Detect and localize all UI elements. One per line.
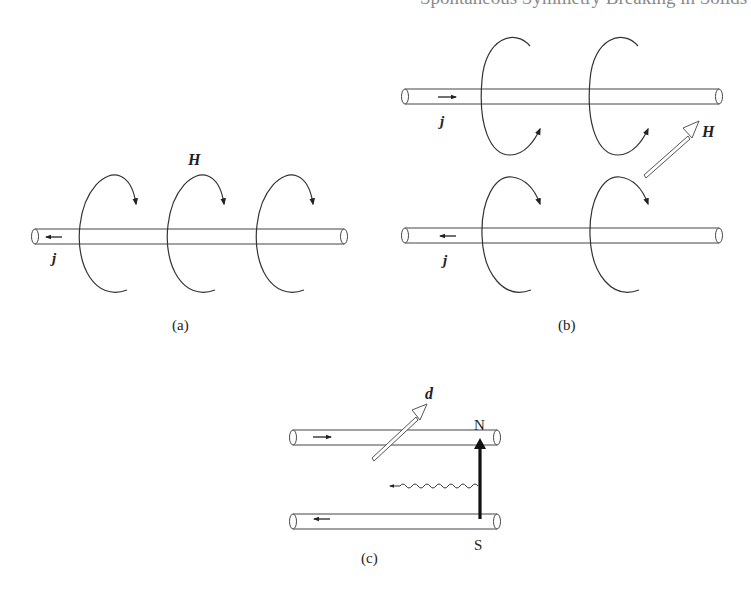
dipole-label: d [425, 385, 434, 402]
field-loops-bottom [482, 177, 648, 292]
panel-b: j j H (b) [402, 37, 723, 334]
panel-c: d N S (c) [290, 385, 501, 567]
wavy-arrow-icon [390, 484, 478, 488]
current-label: j [50, 250, 57, 266]
caption-a: (a) [172, 317, 189, 334]
field-hollow-arrow-icon [644, 121, 699, 178]
caption-b: (b) [558, 317, 576, 334]
dipole-hollow-arrow-icon [372, 404, 427, 461]
bottom-current-label: j [441, 252, 448, 268]
north-label: N [474, 417, 485, 433]
panel-a: j H (a) [32, 151, 348, 334]
field-loops-top [481, 37, 648, 155]
top-current-label: j [438, 113, 445, 129]
field-loops [79, 175, 313, 292]
field-label: H [701, 123, 715, 140]
magnetic-moment-arrowhead-icon [474, 438, 486, 449]
south-label: S [474, 537, 482, 553]
caption-c: (c) [361, 550, 378, 567]
wire-bottom [290, 514, 501, 529]
field-label: H [187, 151, 201, 168]
